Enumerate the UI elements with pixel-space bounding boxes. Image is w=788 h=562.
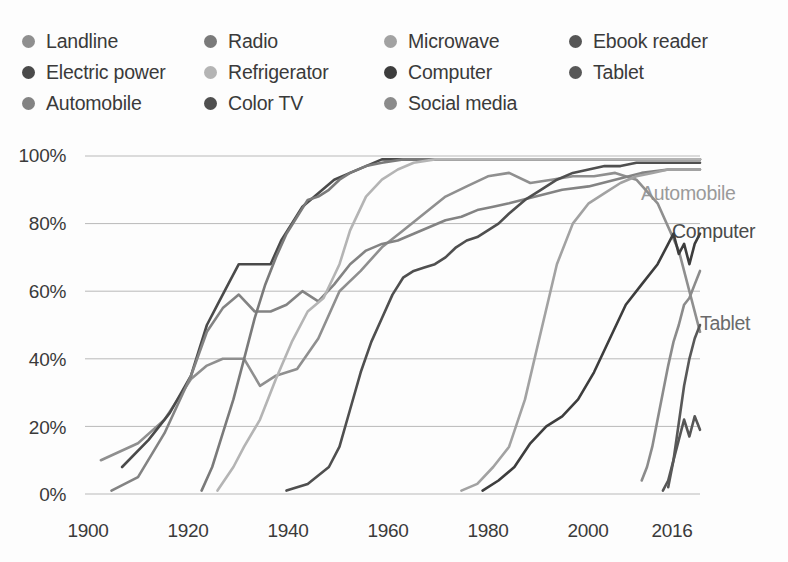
legend-row: Landline Radio Microwave Ebook reader <box>22 26 770 57</box>
legend-label: Automobile <box>46 92 142 115</box>
series-lines <box>101 159 700 490</box>
plot-svg <box>0 130 788 562</box>
legend-swatch-icon <box>22 66 35 79</box>
legend-item-empty <box>569 88 759 119</box>
series-line-computer <box>483 234 700 491</box>
series-line-refrigerator <box>218 159 701 490</box>
legend-item-computer[interactable]: Computer <box>384 57 569 88</box>
series-line-automobile <box>112 170 701 491</box>
legend-item-radio[interactable]: Radio <box>204 26 384 57</box>
legend-label: Microwave <box>408 30 499 53</box>
legend-label: Ebook reader <box>593 30 708 53</box>
legend-swatch-icon <box>204 97 217 110</box>
legend-swatch-icon <box>384 35 397 48</box>
legend-swatch-icon <box>569 66 582 79</box>
legend-item-refrigerator[interactable]: Refrigerator <box>204 57 384 88</box>
legend-swatch-icon <box>384 66 397 79</box>
legend-item-electric-power[interactable]: Electric power <box>22 57 204 88</box>
legend-item-microwave[interactable]: Microwave <box>384 26 569 57</box>
line-chart: 100% 80% 60% 40% 20% 0% 1900 1920 1940 1… <box>0 130 788 562</box>
legend-label: Tablet <box>593 61 644 84</box>
legend-label: Radio <box>228 30 278 53</box>
chart-legend: Landline Radio Microwave Ebook reader El… <box>22 26 770 119</box>
legend-swatch-icon <box>384 97 397 110</box>
legend-label: Computer <box>408 61 492 84</box>
legend-swatch-icon <box>204 66 217 79</box>
legend-label: Social media <box>408 92 517 115</box>
legend-item-automobile[interactable]: Automobile <box>22 88 204 119</box>
legend-item-tablet[interactable]: Tablet <box>569 57 759 88</box>
gridlines <box>85 156 700 494</box>
legend-row: Electric power Refrigerator Computer Tab… <box>22 57 770 88</box>
legend-label: Color TV <box>228 92 303 115</box>
chart-page: Landline Radio Microwave Ebook reader El… <box>0 0 788 562</box>
legend-item-ebook-reader[interactable]: Ebook reader <box>569 26 759 57</box>
series-line-electric-power <box>122 159 700 467</box>
legend-label: Refrigerator <box>228 61 329 84</box>
legend-swatch-icon <box>569 35 582 48</box>
series-line-radio <box>202 159 700 490</box>
legend-label: Landline <box>46 30 118 53</box>
series-line-landline <box>101 173 700 460</box>
legend-item-landline[interactable]: Landline <box>22 26 204 57</box>
legend-item-social-media[interactable]: Social media <box>384 88 569 119</box>
legend-item-color-tv[interactable]: Color TV <box>204 88 384 119</box>
legend-label: Electric power <box>46 61 166 84</box>
series-line-color-tv <box>287 163 701 491</box>
legend-swatch-icon <box>204 35 217 48</box>
legend-row: Automobile Color TV Social media <box>22 88 770 119</box>
legend-swatch-icon <box>22 35 35 48</box>
legend-swatch-icon <box>22 97 35 110</box>
